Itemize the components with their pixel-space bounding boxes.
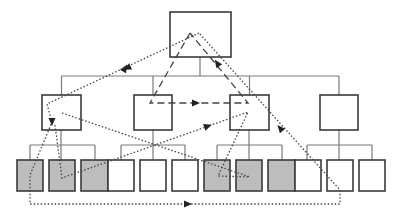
leaf-node: [172, 160, 198, 191]
arrowhead-icon: [184, 201, 192, 208]
level2-node-n2: [134, 95, 172, 130]
leaf-node: [268, 160, 295, 191]
leaf-node: [81, 160, 108, 191]
arrowhead-icon: [192, 100, 200, 107]
leaf-node: [327, 160, 353, 191]
leaf-node: [49, 160, 75, 191]
dashed-triangle: [150, 33, 248, 103]
leaf-node: [236, 160, 262, 191]
leaf-node: [17, 160, 43, 191]
level2-node-n1: [42, 95, 81, 130]
leaf-node: [359, 160, 385, 191]
tree-nodes: [17, 12, 385, 191]
arrowhead-icon: [203, 121, 213, 130]
level2-node-n3: [230, 95, 269, 130]
tree-diagram: [0, 0, 396, 215]
arrowhead-icon: [212, 58, 222, 69]
arrowhead-icon: [275, 123, 286, 134]
level2-node-n4: [320, 95, 358, 130]
leaf-node: [140, 160, 166, 191]
leaf-node: [108, 160, 134, 191]
leaf-node: [204, 160, 230, 191]
